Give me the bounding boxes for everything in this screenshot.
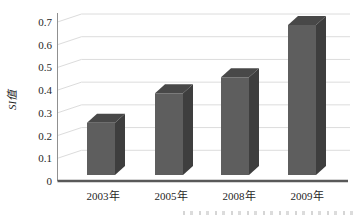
- bar-side-face: [115, 114, 125, 175]
- bar-front-face: [155, 93, 183, 175]
- bar-side-face: [249, 68, 259, 175]
- y-tick-label: 0.7: [24, 15, 52, 29]
- cropped-caption-fragment: [183, 211, 356, 215]
- bar-2003年: [87, 114, 125, 175]
- bar-2005年: [155, 84, 193, 175]
- bar-2009年: [288, 16, 326, 175]
- y-tick-label: 0.3: [24, 106, 52, 120]
- x-category-label: 2003年: [71, 189, 135, 204]
- y-tick-label: 0.1: [24, 151, 52, 165]
- x-category-label: 2005年: [139, 189, 203, 204]
- y-tick-label: 0.2: [24, 129, 52, 143]
- bar-side-face: [316, 16, 326, 175]
- bar-front-face: [221, 77, 249, 175]
- y-tick-label: 0: [24, 174, 52, 188]
- y-tick-label: 0.6: [24, 38, 52, 52]
- bar-2008年: [221, 68, 259, 175]
- x-category-label: 2008年: [207, 189, 271, 204]
- chart-figure: SI值 0.70.60.50.40.30.20.10 2003年2005年200…: [0, 0, 359, 216]
- bar-front-face: [288, 25, 316, 175]
- bar-front-face: [87, 123, 115, 175]
- bar-side-face: [183, 84, 193, 175]
- x-category-label: 2009年: [275, 189, 339, 204]
- y-tick-label: 0.4: [24, 83, 52, 97]
- y-tick-label: 0.5: [24, 60, 52, 74]
- chart-canvas: [0, 0, 359, 216]
